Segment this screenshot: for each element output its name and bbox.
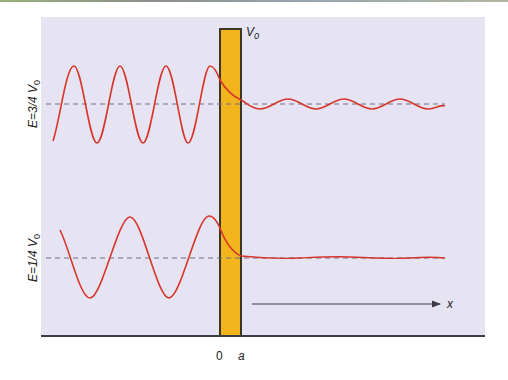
lower-energy-label: E=1/4 V0 xyxy=(26,234,42,282)
barrier-width-label: a xyxy=(238,349,245,363)
x-origin-label: 0 xyxy=(216,349,223,363)
potential-barrier xyxy=(220,29,241,336)
panel-background xyxy=(41,17,485,336)
tunneling-diagram: V0 x 0 a E=3/4 V0 E=1/4 V0 xyxy=(0,0,508,380)
x-axis-label: x xyxy=(446,297,454,311)
upper-energy-label: E=3/4 V0 xyxy=(26,80,42,128)
